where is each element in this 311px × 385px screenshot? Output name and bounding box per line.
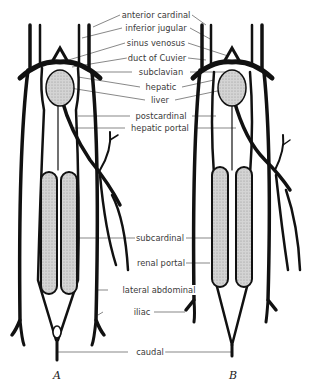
kidney-a-left [41,172,57,294]
label-postcardinal: postcardinal [134,111,187,121]
panel-label-a: A [53,369,61,382]
label-subclavian: subclavian [138,67,184,77]
label-duct-of-Cuvier: duct of Cuvier [127,53,187,63]
kidney-b-right [236,167,252,287]
label-lateral-abdominal: lateral abdominal [122,285,197,295]
label-subcardinal: subcardinal [135,233,185,243]
label-renal-portal: renal portal [136,258,186,268]
label-sinus-venosus: sinus venosus [126,38,186,48]
label-inferior-jugular: inferior jugular [124,23,187,33]
label-liver: liver [150,95,170,105]
liver-a [46,70,74,106]
label-caudal: caudal [135,347,165,357]
panel-label-b: B [229,369,237,382]
label-hepatic-portal: hepatic portal [130,123,190,133]
liver-b [218,70,246,106]
kidney-b-left [212,167,228,287]
label-anterior-cardinal: anterior cardinal [121,10,192,20]
label-iliac: iliac [133,307,152,317]
kidney-a-right [61,172,77,294]
label-hepatic: hepatic [145,82,178,92]
